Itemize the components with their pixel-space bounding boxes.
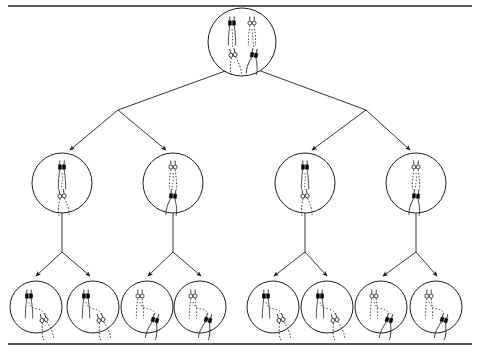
- centromere-circle-left: [370, 294, 374, 298]
- centromere-circle-right: [101, 317, 106, 322]
- centromere-circle-right: [305, 194, 309, 198]
- centromere-circle-right: [374, 294, 378, 298]
- centromere-block-right: [267, 294, 270, 298]
- branch-cell-2-2-arrow-2: [173, 252, 201, 276]
- parent-cell: [208, 8, 276, 76]
- centromere-circle-left: [277, 318, 282, 323]
- branch-cell-2-4-arrow-1: [383, 252, 416, 276]
- connector-layer: [36, 70, 437, 276]
- centromere-block-right: [306, 165, 309, 169]
- diagram-canvas: [0, 0, 480, 352]
- gamete-cell-4-membrane: [174, 281, 226, 333]
- centromere-circle-right: [140, 294, 144, 298]
- centromere-block-left: [58, 165, 61, 169]
- gamete-cell-7-membrane: [355, 281, 407, 333]
- gamete-cell-3-membrane: [121, 281, 173, 333]
- gamete-cell-6-membrane: [301, 281, 353, 333]
- centromere-circle-right: [335, 317, 340, 322]
- branch-parent-left-arrow-1: [70, 110, 118, 150]
- branch-cell-2-2-arrow-1: [148, 252, 173, 276]
- daughter-cell-1: [32, 153, 92, 216]
- daughter-cell-3: [275, 153, 335, 216]
- gamete-cell-3: [121, 281, 173, 340]
- centromere-circle-right: [62, 194, 66, 198]
- centromere-circle-right: [281, 317, 286, 322]
- centromere-block-right: [87, 294, 90, 298]
- gamete-cell-8-membrane: [410, 281, 462, 333]
- branch-cell-2-4-arrow-2: [416, 252, 437, 276]
- centromere-block-left: [82, 294, 85, 298]
- branch-cell-2-1-arrow-1: [36, 252, 62, 276]
- centromere-circle-right: [429, 294, 433, 298]
- gamete-cell-2-membrane: [67, 281, 119, 333]
- gamete-cell-5: [247, 281, 299, 340]
- centromere-circle-left: [331, 318, 336, 323]
- branch-parent-right-stem: [258, 70, 366, 110]
- centromere-block-left: [301, 165, 304, 169]
- centromere-circle-left: [248, 21, 252, 25]
- chromatid-arm-upper-left: [252, 48, 253, 52]
- centromere-circle-right: [233, 52, 238, 57]
- centromere-block-left: [412, 193, 416, 198]
- centromere-circle-right: [193, 294, 197, 298]
- centromere-circle-left: [229, 53, 234, 58]
- gamete-cell-1: [10, 281, 62, 340]
- branch-parent-right-arrow-1: [312, 110, 366, 150]
- centromere-block-right: [173, 194, 177, 199]
- centromere-block-right: [416, 194, 420, 199]
- branch-parent-right-arrow-2: [366, 110, 410, 150]
- centromere-circle-right: [252, 21, 256, 25]
- centromere-block-right: [254, 53, 258, 58]
- daughter-cell-2: [143, 153, 203, 216]
- branch-parent-left-arrow-2: [118, 110, 166, 150]
- centromere-block-left: [169, 193, 173, 198]
- centromere-block-left: [262, 294, 265, 298]
- centromere-circle-left: [136, 294, 140, 298]
- centromere-block-left: [228, 21, 231, 25]
- centromere-circle-left: [412, 165, 416, 169]
- branch-parent-left-stem: [118, 70, 228, 110]
- branch-cell-2-1-arrow-2: [62, 252, 90, 276]
- centromere-block-left: [25, 294, 28, 298]
- centromere-circle-left: [40, 318, 45, 323]
- gamete-cell-2: [67, 281, 119, 340]
- branch-cell-2-3-arrow-1: [274, 252, 305, 276]
- centromere-circle-right: [44, 317, 49, 322]
- gamete-cell-1-membrane: [10, 281, 62, 333]
- gamete-cell-8: [410, 281, 462, 340]
- branch-cell-2-3-arrow-2: [305, 252, 327, 276]
- centromere-circle-left: [189, 294, 193, 298]
- centromere-circle-left: [301, 194, 305, 198]
- centromere-block-right: [321, 294, 324, 298]
- daughter-cell-4: [386, 153, 446, 216]
- centromere-block-right: [30, 294, 33, 298]
- centromere-circle-left: [169, 165, 173, 169]
- chromatid-arm-upper-right: [257, 49, 258, 53]
- gamete-cell-4: [174, 281, 226, 340]
- centromere-block-right: [233, 21, 236, 25]
- gamete-cell-6: [301, 281, 353, 340]
- centromere-block-left: [316, 294, 319, 298]
- cell-layer: [10, 8, 462, 340]
- centromere-circle-left: [97, 318, 102, 323]
- gamete-cell-5-membrane: [247, 281, 299, 333]
- gamete-cell-7: [355, 281, 407, 340]
- centromere-circle-right: [173, 165, 177, 169]
- meiosis-diagram: [0, 0, 480, 352]
- parent-cell-membrane: [208, 8, 276, 76]
- centromere-circle-left: [58, 194, 62, 198]
- centromere-circle-right: [416, 165, 420, 169]
- centromere-block-left: [250, 52, 254, 57]
- centromere-block-right: [63, 165, 66, 169]
- centromere-circle-left: [425, 294, 429, 298]
